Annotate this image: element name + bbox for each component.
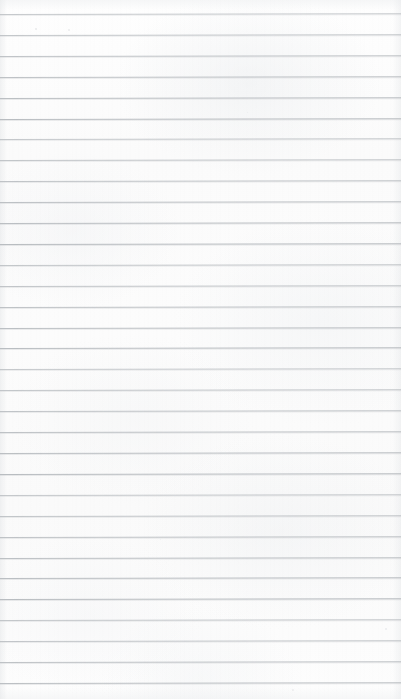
lined-paper-page — [0, 0, 401, 699]
writing-area[interactable] — [0, 0, 401, 699]
